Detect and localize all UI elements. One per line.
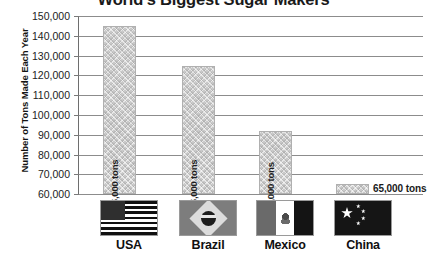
bar-value-label-china: 65,000 tons	[373, 183, 426, 194]
y-tick-label: 80,000	[12, 149, 70, 161]
y-tick-label: 60,000	[12, 188, 70, 200]
category-mexico: Mexico	[242, 200, 328, 252]
category-usa: USA	[86, 200, 172, 252]
mexico-flag-emblem	[280, 212, 291, 224]
category-label-china: China	[320, 238, 406, 252]
bar-china[interactable]	[336, 184, 369, 194]
y-tick	[74, 56, 79, 57]
category-brazil: Brazil	[165, 200, 251, 252]
y-tick	[74, 16, 79, 17]
y-tick-label: 90,000	[12, 129, 70, 141]
y-tick	[74, 194, 79, 195]
usa-flag-canton	[101, 201, 125, 220]
bar-mexico[interactable]: 92,000 tons	[259, 131, 292, 194]
y-tick-label: 140,000	[12, 30, 70, 42]
china-flag-small-star	[356, 221, 361, 226]
mexico-flag-icon	[256, 200, 314, 236]
y-tick-label: 110,000	[12, 89, 70, 101]
y-tick-label: 130,000	[12, 50, 70, 62]
bar-chart: World's Biggest Sugar Makers Number of T…	[0, 0, 427, 257]
y-tick-label: 120,000	[12, 69, 70, 81]
brazil-flag-icon	[179, 200, 237, 236]
brazil-flag-band	[201, 215, 216, 218]
y-tick	[74, 155, 79, 156]
china-flag-small-star	[361, 209, 366, 214]
y-tick-label: 150,000	[12, 10, 70, 22]
bar-usa[interactable]: 145,000 tons	[103, 26, 136, 194]
y-tick	[74, 135, 79, 136]
y-axis-line	[78, 16, 79, 195]
gridline	[78, 194, 423, 195]
bar-brazil[interactable]: 125,000 tons	[182, 66, 215, 195]
category-label-usa: USA	[86, 238, 172, 252]
mexico-flag-left-band	[257, 201, 276, 235]
y-tick	[74, 36, 79, 37]
y-tick	[74, 75, 79, 76]
category-label-brazil: Brazil	[165, 238, 251, 252]
y-tick	[74, 95, 79, 96]
usa-flag-icon	[100, 200, 158, 236]
china-flag-small-star	[356, 204, 361, 209]
category-china: China	[320, 200, 406, 252]
china-flag-icon	[334, 200, 392, 236]
china-flag-small-star	[361, 216, 366, 221]
y-tick-label: 70,000	[12, 168, 70, 180]
y-tick	[74, 174, 79, 175]
chart-title: World's Biggest Sugar Makers	[0, 0, 427, 9]
plot-area: 150,000 140,000 130,000 120,000 110,000 …	[78, 16, 423, 194]
y-tick	[74, 115, 79, 116]
y-tick-label: 100,000	[12, 109, 70, 121]
category-label-mexico: Mexico	[242, 238, 328, 252]
china-flag-big-star	[341, 207, 353, 219]
gridline	[78, 16, 423, 17]
mexico-flag-right-band	[294, 201, 313, 235]
